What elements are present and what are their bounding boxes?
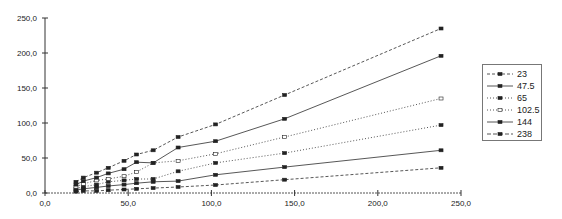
- data-point-marker: [214, 123, 218, 126]
- x-tick-label: 100,0: [201, 199, 222, 208]
- x-tick-label: 200,0: [368, 199, 389, 208]
- legend-label: 238: [517, 129, 532, 139]
- data-point-marker: [122, 159, 126, 162]
- legend-line-marker-icon: [487, 70, 513, 78]
- data-point-marker: [122, 168, 126, 171]
- x-tick-label: 150,0: [285, 199, 306, 208]
- legend-line-marker-icon: [487, 82, 513, 90]
- y-tick-label: 150,0: [17, 84, 38, 93]
- legend-line-marker-icon: [487, 130, 513, 138]
- data-point-marker: [81, 176, 85, 179]
- legend-label: 23: [517, 69, 527, 79]
- data-point-marker: [214, 140, 218, 143]
- data-point-marker: [214, 184, 218, 187]
- x-tick-label: 50,0: [120, 199, 136, 208]
- series-47-5: [74, 149, 443, 192]
- legend-line-marker-icon: [487, 94, 513, 102]
- legend-label: 47.5: [517, 81, 535, 91]
- data-point-marker: [151, 149, 155, 152]
- data-point-marker: [176, 159, 180, 162]
- legend: 2347.565102.5144238: [482, 64, 542, 141]
- data-point-marker: [74, 180, 78, 183]
- data-point-marker: [214, 161, 218, 164]
- data-point-marker: [439, 54, 443, 57]
- data-point-marker: [283, 94, 287, 97]
- legend-line-marker-icon: [487, 106, 513, 114]
- data-point-marker: [135, 182, 139, 185]
- data-point-marker: [151, 178, 155, 181]
- data-point-marker: [283, 178, 287, 181]
- data-point-marker: [106, 178, 110, 181]
- data-point-marker: [176, 180, 180, 183]
- data-point-marker: [214, 173, 218, 176]
- data-point-marker: [135, 153, 139, 156]
- legend-label: 65: [517, 93, 527, 103]
- data-point-marker: [135, 187, 139, 190]
- data-point-marker: [95, 171, 99, 174]
- legend-item: 47.5: [487, 80, 541, 92]
- data-point-marker: [81, 180, 85, 183]
- data-point-marker: [176, 136, 180, 139]
- y-tick-label: 100,0: [17, 119, 38, 128]
- y-tick-label: 200,0: [17, 49, 38, 58]
- data-point-marker: [214, 152, 218, 155]
- x-tick-label: 0,0: [39, 199, 51, 208]
- legend-item: 238: [487, 128, 541, 140]
- line-chart: 0,050,0100,0150,0200,0250,00,050,0100,01…: [0, 0, 562, 219]
- data-point-marker: [283, 136, 287, 139]
- legend-item: 65: [487, 92, 541, 104]
- legend-line-marker-icon: [487, 118, 513, 126]
- data-point-marker: [106, 166, 110, 169]
- data-point-marker: [439, 27, 443, 30]
- data-point-marker: [283, 152, 287, 155]
- data-point-marker: [106, 185, 110, 188]
- series-65: [74, 124, 443, 191]
- legend-label: 102.5: [517, 105, 540, 115]
- series-238: [74, 27, 443, 183]
- data-point-marker: [106, 189, 110, 192]
- data-point-marker: [283, 166, 287, 169]
- data-point-marker: [176, 185, 180, 188]
- data-point-marker: [176, 146, 180, 149]
- data-point-marker: [95, 176, 99, 179]
- data-point-marker: [135, 171, 139, 174]
- legend-item: 144: [487, 116, 541, 128]
- legend-item: 23: [487, 68, 541, 80]
- data-point-marker: [439, 149, 443, 152]
- legend-label: 144: [517, 117, 532, 127]
- data-point-marker: [95, 189, 99, 192]
- data-point-marker: [439, 124, 443, 127]
- y-tick-label: 0,0: [26, 189, 38, 198]
- y-tick-label: 250,0: [17, 14, 38, 23]
- data-point-marker: [122, 175, 126, 178]
- data-point-marker: [283, 117, 287, 120]
- series-102-5: [74, 97, 443, 188]
- data-point-marker: [95, 183, 99, 186]
- data-point-marker: [135, 178, 139, 181]
- legend-item: 102.5: [487, 104, 541, 116]
- x-tick-label: 250,0: [451, 199, 472, 208]
- data-point-marker: [151, 161, 155, 164]
- data-point-marker: [439, 166, 443, 169]
- data-point-marker: [135, 161, 139, 164]
- series-144: [74, 54, 443, 186]
- data-point-marker: [176, 170, 180, 173]
- data-point-marker: [122, 183, 126, 186]
- data-point-marker: [122, 188, 126, 191]
- data-point-marker: [151, 187, 155, 190]
- series-lines: [74, 27, 443, 193]
- y-tick-label: 50,0: [21, 154, 37, 163]
- data-point-marker: [122, 179, 126, 182]
- data-point-marker: [439, 97, 443, 100]
- data-point-marker: [106, 172, 110, 175]
